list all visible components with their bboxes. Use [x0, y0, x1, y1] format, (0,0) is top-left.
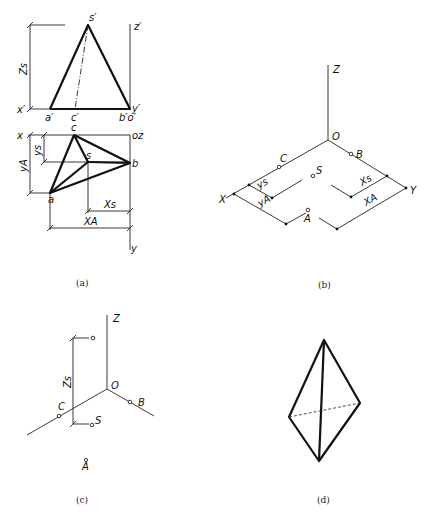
label-a: A: [303, 213, 311, 224]
label-s: S: [95, 415, 102, 426]
label-a: A: [81, 461, 89, 472]
label-z: Z: [112, 313, 121, 324]
point-c: [57, 414, 61, 418]
x-axis: [226, 140, 328, 198]
ya-end-point: [285, 223, 288, 226]
caption-d: (d): [317, 495, 330, 505]
label-o: O: [332, 131, 340, 142]
figure-b: Z O C B S X Y A ys yA Xs XA (b): [218, 64, 417, 290]
label-oz: oz: [132, 130, 144, 141]
label-x-prime: x′: [16, 104, 26, 115]
x-point: [233, 193, 236, 196]
label-x: x: [16, 130, 23, 141]
figure-d: (d): [289, 340, 360, 505]
label-z: Z: [332, 64, 341, 75]
a-extension-left: [286, 213, 306, 224]
label-a: a: [48, 194, 54, 205]
label-b: b: [132, 158, 138, 169]
label-y-prime: y′: [131, 103, 141, 114]
point-s: [90, 423, 94, 427]
pyramid-outline: [289, 340, 360, 461]
visible-edge: [319, 340, 324, 461]
caption-c: (c): [76, 495, 88, 505]
label-ya: yA: [18, 159, 29, 173]
label-xs: Xs: [103, 199, 116, 210]
point-b: [349, 152, 353, 156]
ys-extension: [272, 180, 302, 198]
label-b: B: [138, 397, 145, 408]
hidden-edge: [289, 403, 360, 417]
label-y: Y: [410, 185, 417, 196]
xa-end-point: [336, 228, 339, 231]
point-s-raised: [91, 336, 95, 340]
label-z-prime: z′: [133, 21, 142, 32]
y-point: [405, 187, 408, 190]
label-xa: XA: [83, 216, 98, 227]
label-y: y: [130, 243, 138, 254]
ys-end-point: [271, 197, 274, 200]
label-c: C: [280, 153, 287, 164]
a-extension-right: [319, 218, 337, 229]
front-view: s′ z′ x′ a′ c′ b′o′ y′ Zs: [16, 12, 142, 123]
label-x: X: [218, 194, 227, 205]
point-s: [311, 174, 315, 178]
point-a: [306, 208, 310, 212]
label-ya: yA: [255, 193, 273, 209]
figure-a: s′ z′ x′ a′ c′ b′o′ y′ Zs: [16, 12, 144, 288]
label-c: c: [71, 122, 77, 133]
label-ys: ys: [32, 145, 43, 157]
label-a-prime: a′: [45, 112, 54, 123]
xs-point: [386, 175, 389, 178]
label-s: S: [316, 165, 323, 176]
top-view: x oz c s b a ys yA Xs XA y: [16, 122, 144, 254]
s-extension-right: [331, 185, 351, 197]
caption-a: (a): [76, 278, 88, 288]
edge-sb: [88, 162, 130, 163]
figure-c: Z O C B S A Zs (c): [27, 313, 154, 505]
label-o: O: [111, 380, 119, 391]
label-b: B: [356, 149, 363, 160]
point-b: [128, 400, 132, 404]
label-s: s: [86, 150, 91, 161]
label-zs: Zs: [18, 63, 29, 76]
caption-b: (b): [318, 280, 331, 290]
xs-end-point: [350, 196, 353, 199]
point-c: [277, 165, 281, 169]
projection-diagram: s′ z′ x′ a′ c′ b′o′ y′ Zs: [0, 0, 430, 519]
ys-point: [248, 184, 251, 187]
label-s-prime: s′: [89, 12, 97, 23]
x-axis: [27, 389, 107, 435]
label-c: C: [58, 401, 65, 412]
label-zs: Zs: [62, 376, 73, 389]
front-triangle: [50, 25, 130, 109]
